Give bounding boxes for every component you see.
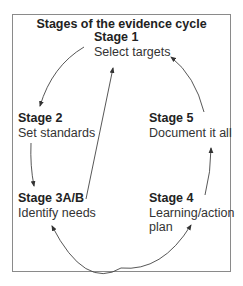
stage-2-name: Stage 2	[18, 111, 95, 126]
stage-3-node: Stage 3A/B Identify needs	[18, 191, 96, 220]
stage-1-description: Select targets	[94, 45, 170, 60]
stage-4-description-line-1: Learning/action	[149, 206, 234, 221]
stage-3-description: Identify needs	[18, 206, 96, 221]
stage-2-node: Stage 2 Set standards	[18, 111, 95, 140]
stage-5-description: Document it all	[149, 126, 232, 141]
stage-1-name: Stage 1	[94, 30, 170, 45]
stage-5-node: Stage 5 Document it all	[149, 111, 232, 140]
stage-3-name: Stage 3A/B	[18, 191, 96, 206]
stage-4-node: Stage 4 Learning/action plan	[149, 191, 234, 235]
stage-4-name: Stage 4	[149, 191, 234, 206]
stage-2-description: Set standards	[18, 126, 95, 141]
stage-4-description-line-2: plan	[149, 220, 234, 235]
stage-5-name: Stage 5	[149, 111, 232, 126]
diagram-title: Stages of the evidence cycle	[12, 17, 231, 31]
stage-1-node: Stage 1 Select targets	[94, 30, 170, 59]
